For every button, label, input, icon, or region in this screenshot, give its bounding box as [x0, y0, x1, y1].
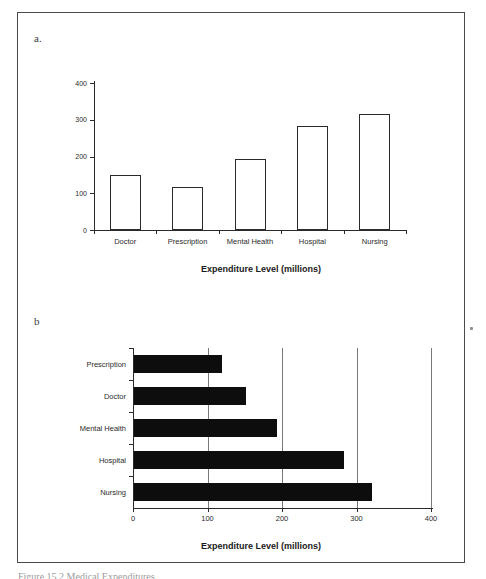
panel-a-axis-title: Expenditure Level (millions) [18, 264, 486, 274]
panel-a-x-tick [219, 230, 220, 234]
panel-b-label: b [34, 315, 40, 327]
panel-b-bar [134, 387, 246, 405]
margin-speck [470, 327, 473, 330]
figure-caption: Figure 15.2 Medical Expenditures. [18, 571, 458, 579]
panel-a-y-tick [90, 193, 94, 194]
panel-a-bar [297, 126, 328, 230]
panel-b-y-tick-label: Mental Health [36, 424, 126, 433]
panel-a-x-tick [156, 230, 157, 234]
panel-a-x-tick-label: Prescription [156, 237, 218, 246]
panel-a-bar [359, 114, 390, 230]
panel-a-x-tick-label: Mental Health [219, 237, 281, 246]
panel-b-x-axis-line [133, 508, 433, 509]
panel-a-bar [172, 187, 203, 230]
panel-a-y-tick-label: 100 [63, 190, 87, 197]
panel-b-x-tick-label: 300 [337, 514, 377, 523]
panel-a-x-tick-label: Doctor [94, 237, 156, 246]
panel-a-x-tick [406, 230, 407, 234]
panel-b-bar [134, 419, 277, 437]
panel-a-y-tick-label: 0 [63, 227, 87, 234]
panel-a-x-tick [94, 230, 95, 234]
panel-b-y-tick [129, 412, 133, 413]
figure-page: 0100200300400DoctorPrescriptionMental He… [0, 0, 486, 579]
panel-b-y-tick [129, 476, 133, 477]
panel-b-x-tick-label: 0 [113, 514, 153, 523]
panel-b-x-tick-label: 200 [262, 514, 302, 523]
panel-b-bar [134, 483, 372, 501]
panel-b-y-tick-label: Prescription [36, 360, 126, 369]
panel-a-x-tick-label: Nursing [344, 237, 406, 246]
panel-b-y-tick-label: Nursing [36, 488, 126, 497]
panel-b-axis-title: Expenditure Level (millions) [18, 541, 486, 551]
panel-a-x-tick [281, 230, 282, 234]
panel-b-x-tick-label: 400 [411, 514, 451, 523]
panel-b-y-tick-label: Doctor [36, 392, 126, 401]
panel-b-bar [134, 451, 344, 469]
panel-b-y-tick [129, 380, 133, 381]
panel-b-bar [134, 355, 222, 373]
panel-a-y-tick-label: 200 [63, 153, 87, 160]
panel-a-y-tick-label: 400 [63, 80, 87, 87]
panel-b-horizontal-bar-chart: 0100200300400PrescriptionDoctorMental He… [18, 303, 486, 579]
panel-b-y-tick [129, 444, 133, 445]
panel-a-bar [110, 175, 141, 230]
panel-a-y-tick-label: 300 [63, 116, 87, 123]
panel-a-y-tick [90, 157, 94, 158]
panel-b-y-tick [129, 348, 133, 349]
figure-frame: 0100200300400DoctorPrescriptionMental He… [17, 12, 465, 563]
panel-b-gridline [431, 348, 432, 508]
panel-a-x-axis-line [94, 230, 406, 231]
panel-b-y-tick-label: Hospital [36, 456, 126, 465]
panel-a-y-tick [90, 120, 94, 121]
panel-a-y-tick [90, 83, 94, 84]
panel-a-vertical-bar-chart: 0100200300400DoctorPrescriptionMental He… [18, 13, 486, 303]
panel-a-x-tick-label: Hospital [281, 237, 343, 246]
panel-a-x-tick [344, 230, 345, 234]
panel-a-y-axis-line [94, 81, 95, 230]
panel-b-x-tick-label: 100 [188, 514, 228, 523]
panel-a-bar [235, 159, 266, 230]
panel-a-label: a. [34, 32, 42, 44]
